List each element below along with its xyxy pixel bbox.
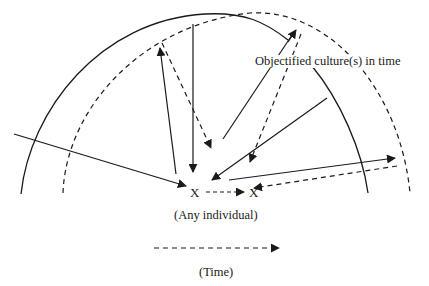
solid-culture-arc	[21, 14, 288, 194]
arrow-culture-head	[288, 30, 296, 42]
arrow-left-to-individual	[14, 134, 186, 186]
arrow-individual-to-right	[229, 158, 395, 180]
time-label: (Time)	[199, 266, 233, 279]
arrow-individual-to-culture-label	[223, 32, 294, 139]
arrow-individual-up-to-culture	[160, 48, 176, 174]
dashed-arrow-right-to-individual	[254, 166, 397, 188]
individual-marker-earlier: X	[190, 186, 199, 199]
dashed-arrow-down-to-individual	[162, 43, 211, 148]
dashed-culture-arc	[63, 13, 410, 193]
culture-individual-diagram	[0, 0, 429, 286]
arrow-right-to-individual	[212, 98, 327, 180]
individual-label: (Any individual)	[174, 209, 258, 222]
individual-marker-later: X	[249, 186, 258, 199]
culture-label: Objectified culture(s) in time	[254, 55, 401, 68]
solid-culture-arc-lower-right	[312, 66, 368, 193]
